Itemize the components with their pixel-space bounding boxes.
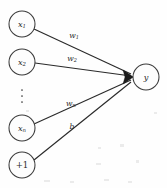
ellipsis-dot xyxy=(21,89,23,91)
edge-label-wn-sub: n xyxy=(73,102,76,108)
ellipsis-dot xyxy=(21,95,23,97)
scan-speck xyxy=(120,144,124,147)
scan-speck xyxy=(44,180,50,182)
edge-label-w2: w2 xyxy=(67,54,77,64)
scan-artifacts xyxy=(26,110,157,183)
edge-label-w2-sub: 2 xyxy=(73,57,77,63)
node-label-x2-sub: 2 xyxy=(22,61,27,67)
edge-x1-y xyxy=(34,29,131,74)
scan-speck xyxy=(96,163,101,165)
vertical-ellipsis-icon xyxy=(21,89,23,103)
edge-label-wn: wn xyxy=(66,99,76,109)
scan-speck xyxy=(136,160,139,163)
scan-speck xyxy=(154,112,157,114)
scan-speck xyxy=(98,147,101,149)
edge-label-b: b xyxy=(70,122,75,131)
edge-bias-y xyxy=(34,82,131,160)
node-label-y: y xyxy=(143,72,149,82)
node-label-xn-sub: n xyxy=(23,127,27,133)
scan-speck xyxy=(104,179,109,181)
edge-x2-y xyxy=(35,63,131,76)
edges-group xyxy=(34,29,131,160)
scan-speck xyxy=(26,110,29,112)
ellipsis-dot xyxy=(21,101,23,103)
edge-label-w1-sub: 1 xyxy=(76,34,79,40)
input-nodes-group xyxy=(9,11,35,178)
scan-speck xyxy=(70,181,74,183)
edge-xn-y xyxy=(34,80,131,124)
edge-label-w1: w1 xyxy=(69,31,79,41)
node-label-x1-sub: 1 xyxy=(23,23,26,29)
diagram-canvas: x1 x2 xn +1 y w1 w2 wn b xyxy=(0,0,167,188)
node-label-bias: +1 xyxy=(16,160,29,170)
perceptron-figure: x1 x2 xn +1 y w1 w2 wn b xyxy=(0,0,167,188)
scan-speck xyxy=(128,181,132,183)
